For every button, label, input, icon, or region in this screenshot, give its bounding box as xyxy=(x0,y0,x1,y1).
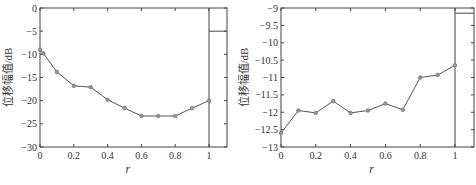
x-tick-label: 0.6 xyxy=(135,150,148,161)
data-point xyxy=(106,98,110,102)
x-tick-label: 0.4 xyxy=(344,150,357,161)
x-axis-label: r xyxy=(369,162,374,176)
x-tick-label: 1 xyxy=(453,150,458,161)
x-tick-label: 0.2 xyxy=(68,150,81,161)
data-point xyxy=(401,108,405,112)
x-tick-label: 0 xyxy=(279,150,284,161)
x-tick-label: 0.2 xyxy=(310,150,323,161)
x-tick-label: 0.8 xyxy=(414,150,427,161)
x-tick-label: 0.4 xyxy=(101,150,114,161)
data-point xyxy=(157,114,161,118)
plot-frame xyxy=(281,8,474,147)
data-point xyxy=(384,102,388,106)
data-point xyxy=(42,52,46,56)
right-chart: −9−9.5−10−10.5−11−11.5−12−12.5−1300.20.4… xyxy=(236,0,476,185)
data-point xyxy=(314,111,318,115)
y-tick-label: −30 xyxy=(21,142,37,153)
data-point xyxy=(72,84,76,88)
x-axis-label: r xyxy=(126,162,131,176)
data-point xyxy=(123,106,127,110)
data-point xyxy=(418,76,422,80)
x-tick-label: 0 xyxy=(38,150,43,161)
x-tick-label: 1 xyxy=(207,150,212,161)
data-point xyxy=(349,111,353,115)
y-tick-label: −15 xyxy=(21,72,37,83)
data-point xyxy=(140,114,144,118)
y-tick-label: −11.5 xyxy=(255,89,278,100)
x-tick-label: 0.6 xyxy=(379,150,392,161)
data-point xyxy=(190,106,194,110)
data-point xyxy=(89,85,93,89)
data-point xyxy=(331,99,335,103)
data-point xyxy=(297,109,301,113)
data-point xyxy=(366,109,370,113)
plot-frame xyxy=(40,8,227,147)
y-tick-label: −25 xyxy=(21,118,37,129)
y-tick-label: −20 xyxy=(21,95,37,106)
x-tick-label: 0.8 xyxy=(169,150,182,161)
y-tick-label: −9.5 xyxy=(260,20,278,31)
y-tick-label: −10.5 xyxy=(255,55,278,66)
y-tick-label: −12.5 xyxy=(255,124,278,135)
left-chart: 0−5−10−15−20−25−3000.20.40.60.81r位移幅值/dB xyxy=(0,0,236,185)
data-point xyxy=(453,64,457,68)
left-chart-canvas: 0−5−10−15−20−25−3000.20.40.60.81r位移幅值/dB xyxy=(0,0,236,185)
data-point xyxy=(173,114,177,118)
data-line xyxy=(281,65,455,133)
y-tick-label: −11 xyxy=(263,72,278,83)
y-tick-label: −10 xyxy=(21,49,37,60)
right-chart-canvas: −9−9.5−10−10.5−11−11.5−12−12.5−1300.20.4… xyxy=(236,0,476,185)
y-tick-label: −13 xyxy=(262,142,278,153)
data-point xyxy=(279,131,283,135)
y-tick-label: −10 xyxy=(262,37,278,48)
y-tick-label: −5 xyxy=(26,26,37,37)
y-tick-label: −12 xyxy=(262,107,278,118)
y-tick-label: 0 xyxy=(32,3,37,14)
y-axis-label: 位移幅值/dB xyxy=(1,48,14,108)
data-point xyxy=(55,70,59,74)
data-point xyxy=(436,73,440,77)
data-point xyxy=(207,99,211,103)
data-point xyxy=(38,48,42,52)
y-tick-label: −9 xyxy=(267,3,278,14)
y-axis-label: 位移幅值/dB xyxy=(237,48,250,108)
